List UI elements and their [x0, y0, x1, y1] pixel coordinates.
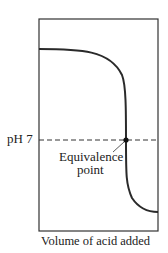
- x-axis-label: Volume of acid added: [41, 234, 150, 249]
- titration-curve: [39, 49, 158, 212]
- equivalence-point-marker: [123, 137, 128, 142]
- ph7-label: pH 7: [7, 131, 33, 147]
- titration-chart: [0, 0, 168, 253]
- plot-frame: [39, 19, 158, 231]
- point-label: point: [77, 162, 104, 178]
